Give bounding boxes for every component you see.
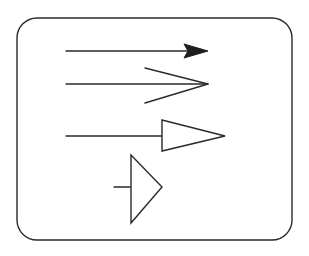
arrow-open-chevron	[66, 68, 208, 103]
arrow-stub-triangle	[114, 155, 162, 223]
arrowhead-styles-diagram	[0, 0, 309, 256]
filled-arrowhead-icon	[184, 44, 208, 58]
large-triangle-arrowhead-icon	[131, 155, 162, 223]
arrow-filled-head	[66, 44, 208, 58]
open-chevron-arrowhead-icon	[145, 68, 208, 103]
open-triangle-arrowhead-icon	[162, 120, 225, 151]
arrow-open-triangle	[66, 120, 225, 151]
